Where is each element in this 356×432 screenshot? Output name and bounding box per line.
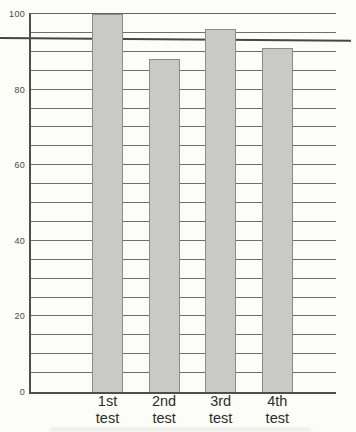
x-category-label-line1: 2nd [134,393,194,410]
bar-2nd-test [149,59,180,392]
x-category-label-line2: test [191,410,251,427]
x-category-label-4th: 4thtest [247,393,307,427]
bar-chart: 020406080100 1sttest2ndtest3rdtest4thtes… [0,0,356,432]
bar-4th-test [262,48,293,392]
x-category-label-1st: 1sttest [78,393,138,427]
plot-area [29,13,336,394]
x-category-label-2nd: 2ndtest [134,393,194,427]
x-category-label-line1: 3rd [191,393,251,410]
y-tick-label-60: 60 [0,159,25,171]
gridline-95 [31,32,336,33]
bar-3rd-test [205,29,236,392]
y-tick-label-20: 20 [0,310,25,322]
bar-1st-test [92,14,123,392]
y-tick-label-100: 100 [0,8,25,20]
x-category-label-line1: 1st [78,393,138,410]
x-category-label-3rd: 3rdtest [191,393,251,427]
y-tick-label-40: 40 [0,235,25,247]
y-tick-label-80: 80 [0,84,25,96]
y-tick-label-0: 0 [0,386,25,398]
x-category-label-line1: 4th [247,393,307,410]
scan-smudge [50,428,311,431]
x-category-label-line2: test [78,410,138,427]
x-category-label-line2: test [134,410,194,427]
x-category-label-line2: test [247,410,307,427]
